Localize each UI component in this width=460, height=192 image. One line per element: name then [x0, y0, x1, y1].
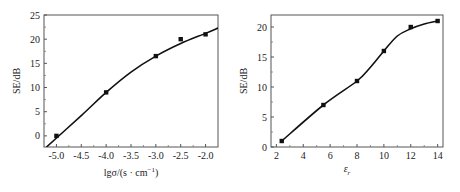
- y-axis-label: SE/dB: [11, 68, 22, 94]
- x-tick-label: 14: [433, 150, 443, 161]
- fit-curve: [46, 28, 218, 147]
- x-tick-label: 6: [328, 150, 333, 161]
- right-chart: 246810121405101520SE/dBεr: [238, 15, 443, 177]
- y-tick-label: 0: [262, 142, 267, 153]
- x-tick-label: -4.5: [73, 150, 89, 161]
- y-tick-label: 0: [35, 130, 40, 141]
- x-tick-label: 8: [355, 150, 360, 161]
- figure: -5.0-4.5-4.0-3.5-3.0-2.5-2.00510152025SE…: [0, 0, 460, 192]
- y-tick-label: 20: [257, 22, 267, 33]
- left-chart: -5.0-4.5-4.0-3.5-3.0-2.5-2.00510152025SE…: [11, 10, 218, 180]
- y-axis-label: SE/dB: [238, 68, 249, 94]
- y-tick-label: 10: [30, 82, 40, 93]
- y-tick-label: 15: [30, 58, 40, 69]
- x-tick-label: -2.5: [173, 150, 189, 161]
- x-tick-label: 12: [406, 150, 416, 161]
- data-point-marker: [355, 79, 359, 83]
- x-tick-label: -5.0: [49, 150, 65, 161]
- fit-curve: [282, 21, 438, 141]
- x-tick-label: -2.0: [198, 150, 214, 161]
- y-tick-label: 5: [262, 112, 267, 123]
- y-tick-label: 25: [30, 10, 40, 21]
- data-point-marker: [179, 37, 183, 41]
- data-point-marker: [321, 103, 325, 107]
- data-point-marker: [154, 54, 158, 58]
- x-tick-label: -3.0: [148, 150, 164, 161]
- x-axis-label: εr: [344, 163, 351, 177]
- plot-frame: [44, 15, 218, 147]
- data-point-marker: [54, 134, 58, 138]
- data-point-marker: [409, 25, 413, 29]
- x-tick-label: 2: [274, 150, 279, 161]
- x-tick-label: -4.0: [98, 150, 114, 161]
- x-tick-label: -3.5: [123, 150, 139, 161]
- data-point-marker: [435, 19, 439, 23]
- data-point-marker: [104, 90, 108, 94]
- x-tick-label: 10: [379, 150, 389, 161]
- data-point-marker: [203, 32, 207, 36]
- y-tick-label: 5: [35, 106, 40, 117]
- data-point-marker: [382, 49, 386, 53]
- x-tick-label: 4: [301, 150, 306, 161]
- data-point-marker: [280, 139, 284, 143]
- y-tick-label: 20: [30, 34, 40, 45]
- y-tick-label: 10: [257, 82, 267, 93]
- y-tick-label: 15: [257, 52, 267, 63]
- x-axis-label: lgσ/(s · cm−1): [104, 166, 159, 179]
